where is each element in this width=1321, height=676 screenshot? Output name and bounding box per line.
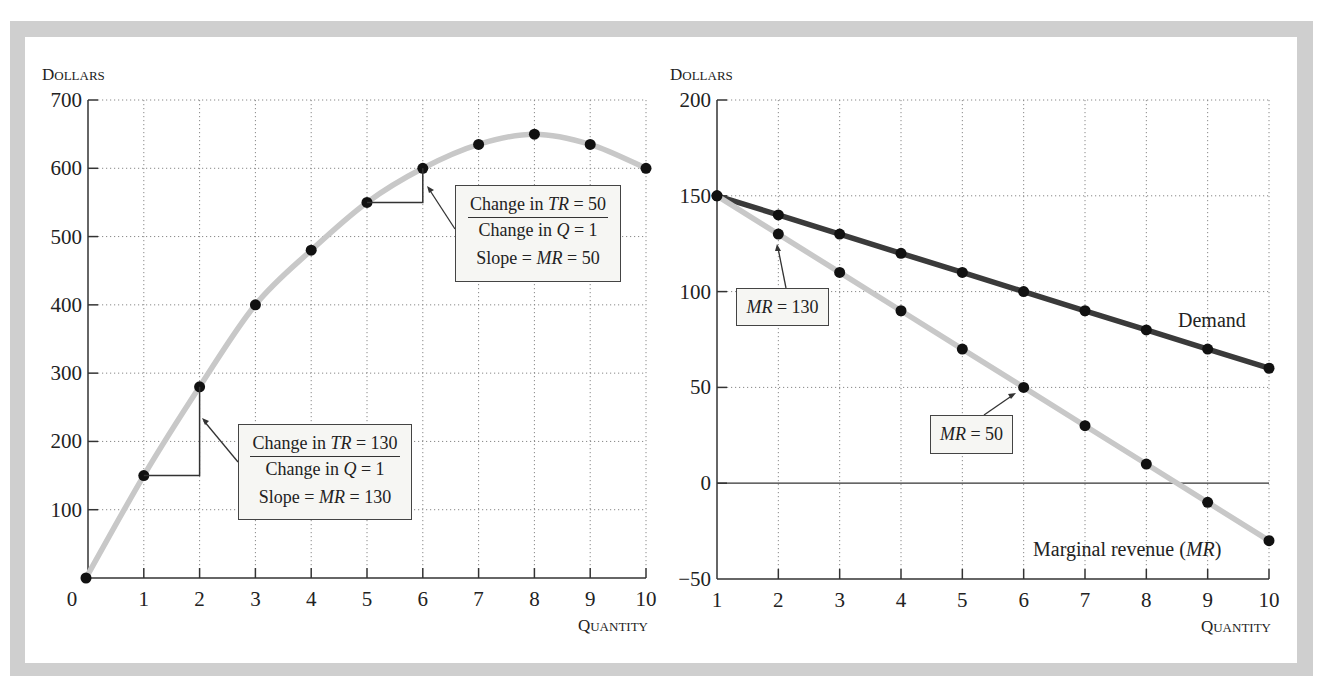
annotation-box-mr-50: MR = 50 <box>930 415 1013 454</box>
x-tick-label: 3 <box>834 588 845 612</box>
demand-label: Demand <box>1178 309 1246 331</box>
x-tick-label: 5 <box>362 587 373 611</box>
data-point <box>641 163 652 174</box>
x-tick-label: 3 <box>250 587 261 611</box>
annotation-box-slope-50: Change in TR = 50 Change in Q = 1 Slope … <box>455 185 621 282</box>
series-marginal-revenue-mr <box>712 190 1275 546</box>
data-point <box>773 229 784 240</box>
x-tick-label: 6 <box>1018 588 1029 612</box>
annotation-slope: Slope = MR = 50 <box>456 246 620 270</box>
data-point <box>834 267 845 278</box>
annotation-slope: Slope = MR = 130 <box>239 485 411 509</box>
data-point <box>1202 344 1213 355</box>
annotation-arrow <box>984 395 1013 415</box>
data-point <box>896 248 907 259</box>
annotation-numerator: Change in TR = 50 <box>468 192 608 218</box>
y-tick-label: −50 <box>678 567 711 591</box>
y-tick-label: 0 <box>701 471 712 495</box>
y-tick-label: 200 <box>680 88 712 112</box>
y-tick-label: 400 <box>51 293 83 317</box>
data-point <box>896 305 907 316</box>
x-tick-label: 7 <box>473 587 484 611</box>
series-line <box>717 196 1269 541</box>
x-tick-label: 1 <box>712 588 723 612</box>
y-tick-label: 50 <box>690 375 711 399</box>
data-point <box>529 129 540 140</box>
x-tick-label: 6 <box>418 587 429 611</box>
data-point <box>1080 420 1091 431</box>
data-point <box>712 190 723 201</box>
y-tick-label: 700 <box>51 88 83 112</box>
annotation-numerator: Change in TR = 130 <box>250 431 399 457</box>
data-point <box>1080 305 1091 316</box>
y-tick-label: 600 <box>51 156 83 180</box>
data-point <box>773 209 784 220</box>
series-demand <box>712 190 1275 373</box>
x-tick-label: 4 <box>896 588 907 612</box>
x-tick-label: 5 <box>957 588 968 612</box>
mr-label: Marginal revenue (MR) <box>1033 538 1221 561</box>
data-point <box>81 573 92 584</box>
annotation-denominator: Change in Q = 1 <box>456 218 620 242</box>
y-tick-label: 150 <box>680 184 712 208</box>
series-line <box>717 196 1269 368</box>
y-tick-label: 300 <box>51 361 83 385</box>
data-point <box>1018 286 1029 297</box>
y-tick-label: 500 <box>51 225 83 249</box>
data-point <box>1141 459 1152 470</box>
x-tick-label: 2 <box>194 587 205 611</box>
x-tick-label: 8 <box>1141 588 1152 612</box>
x-tick-label: 10 <box>1259 588 1280 612</box>
x-tick-label: 1 <box>139 587 150 611</box>
gridlines <box>727 100 1269 569</box>
axis-title: QUANTITY <box>1201 617 1272 636</box>
axis-title: DOLLARS <box>42 65 105 84</box>
y-tick-label: 100 <box>680 280 712 304</box>
annotation-denominator: Change in Q = 1 <box>239 457 411 481</box>
annotation-arrow <box>778 248 786 288</box>
axis-title: DOLLARS <box>670 65 733 84</box>
annotation-box-slope-130: Change in TR = 130 Change in Q = 1 Slope… <box>238 424 412 520</box>
data-point <box>1202 497 1213 508</box>
x-tick-label: 2 <box>773 588 784 612</box>
x-tick-label: 9 <box>585 587 596 611</box>
data-point <box>250 299 261 310</box>
data-point <box>834 229 845 240</box>
x-tick-label: 7 <box>1080 588 1091 612</box>
y-tick-label: 100 <box>51 498 83 522</box>
data-point <box>1264 535 1275 546</box>
data-point <box>1141 324 1152 335</box>
data-point <box>957 344 968 355</box>
y-tick-label: 200 <box>51 429 83 453</box>
x-tick-label: 0 <box>67 587 78 611</box>
x-tick-label: 10 <box>636 587 657 611</box>
x-tick-label: 9 <box>1202 588 1213 612</box>
annotation-arrow <box>204 421 238 462</box>
data-point <box>1018 382 1029 393</box>
axis-title: QUANTITY <box>578 616 649 635</box>
x-tick-label: 8 <box>529 587 540 611</box>
total-revenue-chart: 100200300400500600700012345678910DOLLARS… <box>42 65 657 635</box>
data-point <box>1264 363 1275 374</box>
data-point <box>473 139 484 150</box>
data-point <box>585 139 596 150</box>
annotation-arrow <box>429 189 455 229</box>
charts-canvas: 100200300400500600700012345678910DOLLARS… <box>0 0 1321 676</box>
x-tick-label: 4 <box>306 587 317 611</box>
demand-mr-chart: −5005010015020012345678910DOLLARSQUANTIT… <box>670 65 1280 636</box>
data-point <box>306 245 317 256</box>
data-point <box>957 267 968 278</box>
annotation-box-mr-130: MR = 130 <box>736 288 829 326</box>
